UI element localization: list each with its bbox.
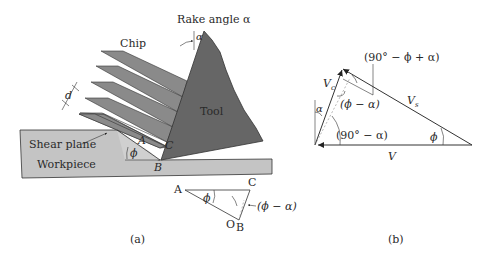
inset-a-label: A [173, 183, 183, 196]
tool-label: Tool [200, 105, 224, 118]
rake-angle-label: Rake angle α [177, 13, 251, 26]
caption-a: (a) [130, 233, 145, 246]
inset-c-label: C [248, 176, 256, 189]
angle-90-minus-alpha-label: (90° − α) [336, 129, 388, 142]
inset-triangle: A C ϕ (ϕ − α) O B [173, 176, 297, 234]
panel-a: d Rake angle α α Chip Tool Shear plane W… [20, 13, 297, 246]
point-c-label: C [165, 139, 174, 152]
alpha-label: α [316, 103, 323, 114]
shear-plane-label: Shear plane [29, 138, 96, 151]
phi-label: ϕ [130, 147, 138, 160]
workpiece-label: Workpiece [37, 158, 96, 171]
caption-b: (b) [388, 233, 404, 246]
d-label: d [65, 89, 72, 102]
point-b-label: B [153, 161, 162, 174]
angle-phi-minus-alpha-label: (ϕ − α) [340, 98, 380, 111]
chip-label: Chip [120, 37, 146, 50]
inset-b-label: B [236, 221, 244, 234]
inset-o-label: O [226, 218, 235, 231]
orthogonal-cutting-figure: d Rake angle α α Chip Tool Shear plane W… [0, 0, 488, 260]
angle-90-minus-phi-plus-alpha-label: (90° − ϕ + α) [364, 51, 439, 64]
inset-phi-minus-alpha-label: (ϕ − α) [257, 200, 297, 213]
vs-label: Vs [407, 94, 419, 109]
vc-label: Vc [323, 77, 335, 92]
tool-alpha-label: α [196, 31, 203, 42]
inset-phi-label: ϕ [203, 192, 211, 205]
v-label: V [388, 150, 397, 163]
phi-b-label: ϕ [430, 131, 438, 144]
panel-b: (90° − ϕ + α) Vc Vs α (ϕ − α) (90° − α) … [315, 51, 472, 246]
point-a-label: A [137, 134, 146, 147]
